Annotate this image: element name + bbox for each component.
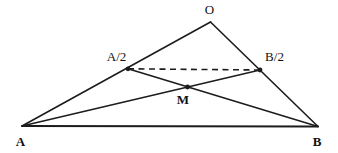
label-b2: B/2 (265, 49, 284, 64)
edge-base-ab (22, 126, 318, 127)
edge-side-ao (22, 22, 211, 126)
label-o: O (205, 2, 214, 17)
point-dot-b2 (258, 68, 263, 73)
point-dot-m (185, 85, 190, 90)
edge-cevian-b-a2 (128, 69, 318, 127)
label-a: A (16, 134, 26, 149)
label-a2: A/2 (107, 49, 127, 64)
label-b: B (313, 134, 322, 149)
point-dot-a2 (126, 66, 131, 71)
screenshot-root: ABOA/2B/2M (0, 0, 338, 153)
triangle-figure-canvas: ABOA/2B/2M (0, 0, 338, 153)
geometry-diagram: ABOA/2B/2M (0, 0, 338, 153)
edge-midsegment-a2-b2 (128, 69, 260, 70)
label-m: M (177, 92, 189, 107)
